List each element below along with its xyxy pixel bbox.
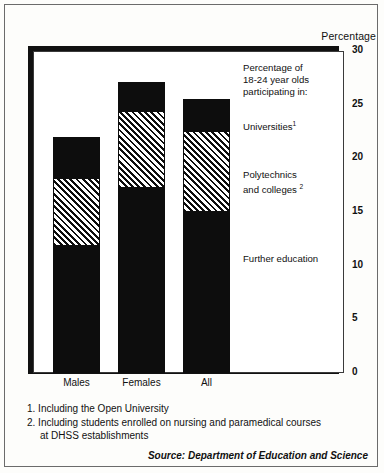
y-axis: 30 25 20 15 10 5 0 xyxy=(344,46,384,378)
bar-females xyxy=(118,82,165,373)
legend-item-polytechnics: Polytechnicsand colleges 2 xyxy=(243,169,339,197)
legend-footnote-ref-2: 2 xyxy=(300,183,304,190)
bar-segment-further-education-males xyxy=(53,245,100,373)
y-tick-10: 10 xyxy=(352,260,363,270)
bar-segment-further-education-females xyxy=(118,187,165,373)
footnotes: 1. Including the Open University 2. Incl… xyxy=(27,402,357,443)
legend-label-polytechnics-line-2: and colleges xyxy=(243,184,297,195)
y-tick-20: 20 xyxy=(352,152,363,162)
source-note: Source: Department of Education and Scie… xyxy=(148,450,368,461)
legend-item-further-education: Further education xyxy=(243,253,318,265)
y-tick-25: 25 xyxy=(352,99,363,109)
bar-males xyxy=(53,137,100,373)
y-tick-5: 5 xyxy=(352,313,358,323)
legend-footnote-ref-1: 1 xyxy=(293,120,297,127)
legend-label-further-education: Further education xyxy=(243,253,318,264)
legend-label-polytechnics-line-1: Polytechnics xyxy=(243,169,297,180)
bar-segment-universities-all xyxy=(183,99,230,131)
bar-segment-further-education-all xyxy=(183,211,230,373)
legend: Percentage of 18-24 year olds participat… xyxy=(243,62,343,99)
category-label-all: All xyxy=(171,377,242,388)
legend-label-universities: Universities xyxy=(243,121,293,132)
legend-heading-line-3: participating in: xyxy=(243,86,343,98)
footnote-1: 1. Including the Open University xyxy=(27,402,357,416)
bars-layer xyxy=(33,51,344,373)
axis-title: Percentage xyxy=(321,30,376,42)
y-tick-15: 15 xyxy=(352,206,363,216)
bar-segment-universities-females xyxy=(118,82,165,112)
bar-all xyxy=(183,99,230,373)
footnote-2: 2. Including students enrolled on nursin… xyxy=(27,416,357,430)
legend-item-universities: Universities1 xyxy=(243,118,296,133)
bar-segment-universities-males xyxy=(53,137,100,179)
category-label-females: Females xyxy=(106,377,177,388)
y-tick-0: 0 xyxy=(352,367,358,377)
bar-segment-polytechnics-females xyxy=(118,112,165,187)
category-label-males: Males xyxy=(41,377,112,388)
legend-heading-line-2: 18-24 year olds xyxy=(243,74,343,86)
legend-heading-line-1: Percentage of xyxy=(243,62,343,74)
footnote-2-continuation: at DHSS establishments xyxy=(27,429,357,443)
category-labels: Males Females All xyxy=(33,377,344,393)
bar-segment-polytechnics-males xyxy=(53,179,100,246)
legend-heading: Percentage of 18-24 year olds participat… xyxy=(243,62,343,99)
chart-page: Percentage Percentage of 18-24 year olds… xyxy=(0,0,384,473)
y-tick-30: 30 xyxy=(352,45,363,55)
bar-segment-polytechnics-all xyxy=(183,132,230,211)
